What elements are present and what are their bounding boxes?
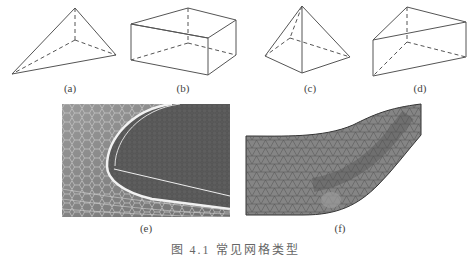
label-e: (e)	[126, 222, 166, 234]
mesh-e-graphic	[62, 104, 230, 217]
tetrahedron-diagram	[0, 0, 120, 80]
label-f: (f)	[320, 222, 360, 234]
hexahedron-diagram	[128, 0, 238, 80]
figure-caption: 图 4.1 常见网格类型	[0, 240, 470, 258]
wedge-prism-diagram	[370, 0, 470, 80]
unstructured-mesh-panel	[243, 100, 423, 220]
structured-mesh-panel	[62, 104, 230, 217]
label-b: (b)	[163, 82, 203, 94]
label-a: (a)	[50, 82, 90, 94]
pyramid-diagram	[260, 0, 355, 80]
mesh-f-graphic	[243, 100, 423, 220]
label-c: (c)	[290, 82, 330, 94]
label-d: (d)	[400, 82, 440, 94]
